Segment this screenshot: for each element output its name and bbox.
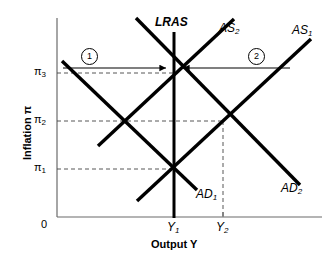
curve-ad1 [62, 61, 197, 190]
x-tick-label-y2: Y2 [216, 221, 228, 235]
curve-as1 [137, 39, 311, 201]
y-axis-title: Inflation π [22, 106, 33, 160]
curves-group [62, 18, 311, 218]
origin-label: 0 [41, 219, 47, 230]
y-tick-label-pi1: π1 [34, 162, 46, 175]
annotation-step-1: 1 [81, 48, 98, 65]
diagram-canvas [0, 0, 326, 263]
curve-label-ad1: AD1 [196, 188, 217, 202]
curve-label-ad2: AD2 [281, 182, 302, 196]
x-axis-title: Output Y [151, 239, 197, 250]
y-tick-label-pi2: π2 [34, 114, 46, 127]
aggregate-supply-demand-diagram: LRAS AS2 AS1 AD1 AD2 π3 π2 π1 0 Y1 Y2 In… [0, 0, 326, 263]
curve-as2 [98, 19, 234, 146]
curve-label-as2: AS2 [219, 22, 239, 36]
curve-label-lras: LRAS [155, 16, 188, 28]
annotation-step-2: 2 [248, 48, 265, 65]
y-tick-label-pi3: π3 [34, 66, 46, 79]
curve-ad2 [136, 18, 300, 185]
x-tick-label-y1: Y1 [167, 221, 179, 235]
curve-label-as1: AS1 [292, 24, 312, 38]
